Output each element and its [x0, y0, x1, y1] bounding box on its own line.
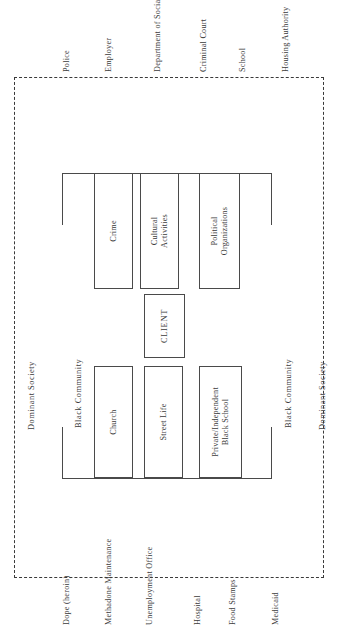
edge-label-unemployment-office: Unemployment Office — [145, 547, 154, 626]
black-community-bracket-right-lower — [271, 427, 272, 479]
edge-label-school: School — [238, 48, 247, 72]
side-label-black-community-right: Black Community — [284, 359, 293, 428]
box-black-school-label-line1: Private/Independent — [211, 387, 220, 457]
box-cultural-activities: Cultural Activities — [140, 173, 179, 289]
black-community-bracket-left-lower — [62, 427, 63, 479]
box-cultural-activities-label-line1: Cultural — [150, 217, 159, 245]
box-street-life-label: Street Life — [159, 404, 169, 441]
edge-label-housing-authority: Housing Authority — [281, 7, 290, 72]
box-political-organizations: Political Organizations — [199, 173, 240, 289]
box-crime-label: Crime — [109, 220, 119, 241]
box-crime: Crime — [94, 173, 133, 289]
edge-label-food-stamps: Food Stamps — [228, 579, 237, 625]
box-cultural-activities-label: Cultural Activities — [150, 214, 170, 248]
box-church-label: Church — [109, 409, 119, 434]
edge-label-department-of-social-services: Department of Social Services — [153, 0, 162, 72]
box-private-independent-black-school: Private/Independent Black School — [199, 366, 242, 478]
box-black-school-label-line2: Black School — [221, 399, 230, 445]
side-label-black-community-left: Black Community — [74, 359, 83, 428]
black-community-bracket-right-upper — [271, 173, 272, 225]
box-political-organizations-label-line2: Organizations — [220, 207, 229, 255]
black-community-bracket-bottom — [62, 478, 272, 479]
edge-label-methadone-maintenance: Methadone Maintenance — [104, 539, 113, 625]
box-cultural-activities-label-line2: Activities — [160, 214, 169, 248]
box-political-organizations-label-line1: Political — [210, 216, 219, 245]
box-client: CLIENT — [144, 294, 185, 358]
box-client-label: CLIENT — [159, 309, 169, 343]
box-street-life: Street Life — [144, 366, 183, 478]
edge-label-employer: Employer — [104, 38, 113, 72]
box-private-independent-black-school-label: Private/Independent Black School — [211, 387, 231, 457]
edge-label-medicaid: Medicaid — [271, 592, 280, 625]
side-label-dominant-society-left: Dominant Society — [27, 361, 36, 430]
side-label-dominant-society-right: Dominant Society — [318, 361, 327, 430]
edge-label-criminal-court: Criminal Court — [199, 19, 208, 72]
edge-label-hospital: Hospital — [193, 595, 202, 625]
ecomap-diagram: Police Employer Department of Social Ser… — [0, 0, 339, 637]
box-political-organizations-label: Political Organizations — [210, 207, 230, 255]
box-church: Church — [94, 366, 133, 478]
edge-label-dope-heroin: Dope (heroin) — [62, 576, 71, 625]
black-community-bracket-left-upper — [62, 173, 63, 225]
edge-label-police: Police — [62, 50, 71, 72]
